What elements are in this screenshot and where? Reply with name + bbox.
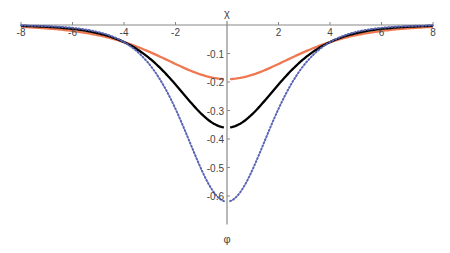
blue-dotted-curve — [21, 25, 224, 201]
x-tick-label: -6 — [68, 27, 77, 38]
blue-dotted-curve — [230, 25, 433, 201]
axes — [21, 21, 433, 225]
x-axis-label: χ — [224, 7, 230, 19]
y-axis-label: φ — [223, 233, 230, 245]
y-tick-label: -0.5 — [207, 163, 225, 174]
x-tick-label: 6 — [379, 27, 385, 38]
y-tick-label: -0.6 — [207, 191, 225, 202]
y-tick-label: -0.3 — [207, 106, 225, 117]
x-tick-label: 4 — [327, 27, 333, 38]
x-tick-label: -8 — [17, 27, 26, 38]
x-tick-label: 2 — [276, 27, 282, 38]
x-tick-label: -2 — [171, 27, 180, 38]
x-tick-label: 8 — [430, 27, 436, 38]
y-tick-label: -0.2 — [207, 77, 225, 88]
plot-area: -8-6-4-22468-0.1-0.2-0.3-0.4-0.5-0.6χφ — [0, 0, 450, 253]
x-tick-label: -4 — [120, 27, 129, 38]
chart: -8-6-4-22468-0.1-0.2-0.3-0.4-0.5-0.6χφ — [0, 0, 450, 253]
axis-labels: -8-6-4-22468-0.1-0.2-0.3-0.4-0.5-0.6χφ — [17, 7, 437, 245]
y-tick-label: -0.4 — [207, 134, 225, 145]
y-tick-label: -0.1 — [207, 49, 225, 60]
